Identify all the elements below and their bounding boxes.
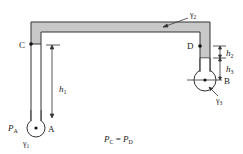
label-c: C xyxy=(19,40,25,50)
manometer-diagram: C D A B γ2 γ3 γ1 h1 h2 h3 PA PC = PD xyxy=(0,0,243,154)
label-d: D xyxy=(187,41,194,51)
label-h2: h2 xyxy=(226,48,234,59)
h1-dimension xyxy=(46,45,60,118)
gamma3-leader xyxy=(209,87,218,96)
equation-pc-equals-pd: PC = PD xyxy=(103,134,134,145)
point-a-dot xyxy=(34,126,37,129)
point-d-dot xyxy=(198,44,202,48)
point-c-dot xyxy=(29,42,33,46)
label-h1: h1 xyxy=(59,84,67,95)
label-gamma1: γ1 xyxy=(22,139,30,149)
manometer-tube xyxy=(31,22,210,120)
fluid-gamma2-region xyxy=(31,22,210,58)
label-gamma3: γ3 xyxy=(215,96,223,106)
point-b-dot xyxy=(203,78,206,81)
label-pa: PA xyxy=(7,123,19,134)
label-a: A xyxy=(48,124,55,134)
label-gamma2: γ2 xyxy=(189,10,197,20)
label-h3: h3 xyxy=(226,64,234,75)
label-b: B xyxy=(224,76,230,86)
